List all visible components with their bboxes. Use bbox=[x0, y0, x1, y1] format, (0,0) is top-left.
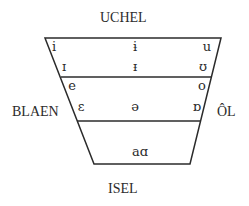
vowel-chart: UCHEL ISEL BLAEN ÔL i ɨ u ɪ ᵻ ʊ e o ɛ ə … bbox=[0, 0, 249, 206]
vowel-barred-small-capital-i: ᵻ bbox=[133, 60, 137, 73]
vowel-schwa: ə bbox=[131, 100, 139, 113]
vowel-trapezoid bbox=[0, 0, 249, 206]
vowel-a-script-a: aɑ bbox=[132, 145, 148, 158]
vowel-open-e: ɛ bbox=[78, 100, 85, 113]
label-back: ÔL bbox=[217, 105, 236, 119]
vowel-u: u bbox=[203, 40, 211, 53]
vowel-o: o bbox=[198, 79, 206, 92]
vowel-small-capital-i: ɪ bbox=[62, 60, 66, 73]
vowel-i: i bbox=[52, 40, 56, 53]
vowel-turned-script-a: ɒ bbox=[193, 100, 201, 113]
label-front: BLAEN bbox=[12, 105, 59, 119]
vowel-e: e bbox=[68, 79, 76, 92]
vowel-upsilon: ʊ bbox=[199, 60, 207, 73]
label-open: ISEL bbox=[108, 182, 138, 196]
label-close: UCHEL bbox=[100, 11, 147, 25]
vowel-barred-i: ɨ bbox=[133, 40, 137, 53]
